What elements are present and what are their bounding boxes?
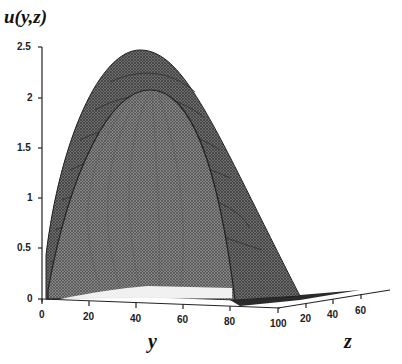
depth-tick-label: 60 <box>355 305 366 316</box>
z-tick-label: 0.5 <box>17 242 31 253</box>
y-tick-label: 40 <box>130 313 141 324</box>
depth-axis-title: z <box>344 330 352 353</box>
z-tick-label: 0 <box>27 293 33 304</box>
z-tick-label: 2.5 <box>17 41 31 52</box>
y-tick-label: 100 <box>270 318 287 329</box>
surface-plot <box>0 0 402 364</box>
z-tick-label: 1.5 <box>17 142 31 153</box>
depth-tick-label: 40 <box>327 309 338 320</box>
depth-tick-label: 20 <box>300 313 311 324</box>
y-tick-label: 60 <box>177 314 188 325</box>
z-tick-label: 2 <box>27 92 33 103</box>
y-tick-label: 80 <box>224 316 235 327</box>
y-tick-label: 20 <box>83 311 94 322</box>
y-axis-title: y <box>148 330 157 353</box>
z-tick-label: 1 <box>27 192 33 203</box>
y-tick-label: 0 <box>39 309 45 320</box>
